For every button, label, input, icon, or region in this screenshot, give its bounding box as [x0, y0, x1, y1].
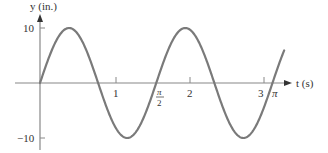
x-axis-arrow-icon: [284, 80, 292, 86]
y-axis-arrow-icon: [37, 14, 43, 22]
x-tick-label-1: 1: [113, 87, 119, 99]
x-axis-label: t (s): [296, 77, 314, 90]
chart: y (in.) t (s) 10 −10 1 π 2 2 3 π: [0, 0, 328, 153]
y-axis-label: y (in.): [30, 0, 57, 13]
y-tick-label-neg10: −10: [17, 132, 35, 144]
y-tick-label-10: 10: [23, 22, 35, 34]
x-tick-label-2: 2: [187, 87, 193, 99]
x-tick-label-pi2-numerator: π: [157, 87, 162, 97]
x-tick-label-pi: π: [272, 87, 278, 99]
x-tick-label-pi2-denominator: 2: [157, 98, 162, 108]
x-tick-label-3: 3: [258, 87, 264, 99]
